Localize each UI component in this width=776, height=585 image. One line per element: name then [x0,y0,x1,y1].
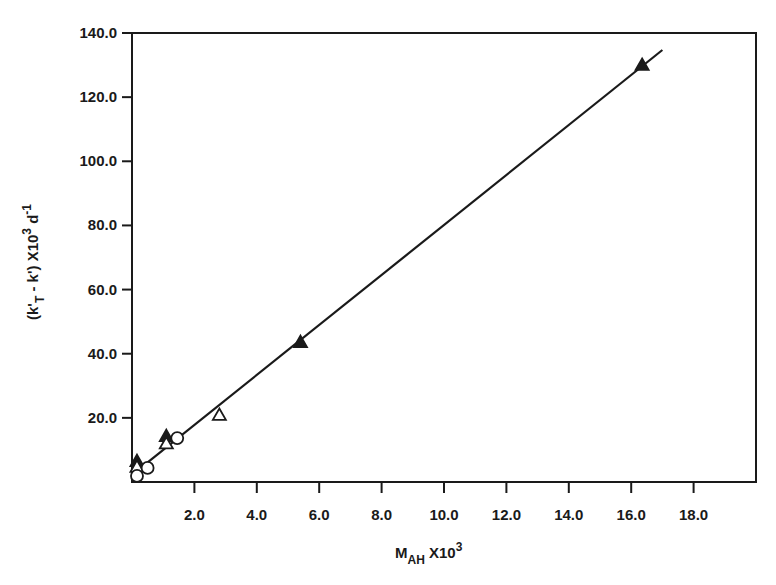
open-triangle-marker [213,408,226,419]
y-tick-label: 60.0 [88,281,117,298]
x-tick-label: 6.0 [309,506,330,523]
x-tick-label: 8.0 [371,506,392,523]
x-tick-label: 2.0 [184,506,205,523]
y-tick-label: 100.0 [79,152,117,169]
filled-triangle-marker [636,59,649,70]
y-tick-label: 140.0 [79,24,117,41]
y-tick-label: 20.0 [88,409,117,426]
y-tick-label: 120.0 [79,88,117,105]
y-axis-title: (k'T - k') X103 d-1 [20,204,47,320]
fit-line [132,50,662,475]
y-tick-label: 80.0 [88,216,117,233]
x-tick-label: 14.0 [554,506,583,523]
open-circle-marker [142,462,154,474]
plot-frame [132,33,756,482]
x-axis-title: MAH X103 [395,540,463,567]
scatter-chart: 2.04.06.08.010.012.014.016.018.0 20.040.… [0,0,776,585]
x-axis-ticks: 2.04.06.08.010.012.014.016.018.0 [184,482,708,523]
x-tick-label: 16.0 [617,506,646,523]
y-axis-ticks: 20.040.060.080.0100.0120.0140.0 [79,24,132,426]
open-circle-marker [171,432,183,444]
x-tick-label: 4.0 [246,506,267,523]
axes-box [132,33,756,482]
regression-line [132,50,662,475]
x-tick-label: 12.0 [492,506,521,523]
open-circle-marker [131,470,143,482]
y-tick-label: 40.0 [88,345,117,362]
x-tick-label: 10.0 [429,506,458,523]
x-tick-label: 18.0 [679,506,708,523]
